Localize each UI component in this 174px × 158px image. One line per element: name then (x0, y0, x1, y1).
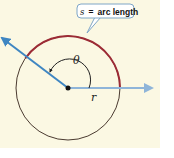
theta-label: θ (73, 54, 80, 67)
callout-pointer (87, 17, 101, 33)
arc-length-diagram: θ r s = arc length (0, 0, 174, 158)
callout-label: s = arc length (80, 7, 138, 17)
radius-label: r (91, 91, 97, 104)
center-point (66, 86, 71, 91)
angle-arc-icon (50, 59, 91, 88)
terminal-ray (2, 38, 68, 88)
